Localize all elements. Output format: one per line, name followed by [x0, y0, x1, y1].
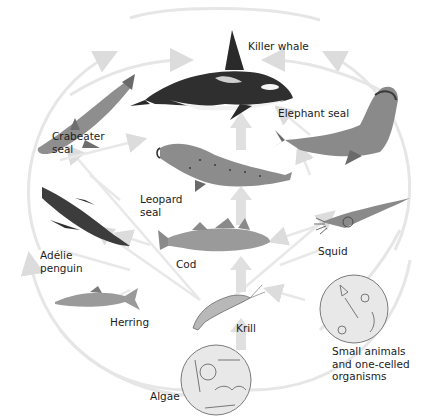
- label-cod: Cod: [176, 258, 196, 271]
- label-line: Adélie: [40, 249, 100, 262]
- label-adelie-penguin: Adélie penguin: [40, 249, 100, 274]
- label-line: and one-celled: [332, 358, 437, 371]
- label-line: penguin: [40, 262, 100, 275]
- label-crabeater-seal: Crabeater seal: [52, 130, 112, 155]
- food-web-diagram: Killer whale Elephant seal Crabeater sea…: [0, 0, 437, 418]
- label-small-animals: Small animals and one-celled organisms: [332, 345, 437, 383]
- label-herring: Herring: [110, 316, 149, 329]
- label-line: seal: [140, 206, 200, 219]
- algae-circle-icon: [181, 345, 251, 415]
- label-killer-whale: Killer whale: [248, 40, 309, 53]
- label-krill: Krill: [236, 322, 256, 335]
- leopard-seal-icon: [157, 144, 292, 192]
- label-line: Small animals: [332, 345, 437, 358]
- label-line: Leopard: [140, 193, 200, 206]
- label-line: Crabeater: [52, 130, 112, 143]
- herring-icon: [55, 286, 140, 310]
- label-algae: Algae: [150, 390, 180, 403]
- label-squid: Squid: [318, 245, 348, 258]
- cod-icon: [158, 218, 270, 251]
- label-elephant-seal: Elephant seal: [278, 107, 349, 120]
- label-line: organisms: [332, 370, 437, 383]
- plankton-circle-icon: [320, 275, 388, 343]
- label-leopard-seal: Leopard seal: [140, 193, 200, 218]
- label-line: seal: [52, 143, 112, 156]
